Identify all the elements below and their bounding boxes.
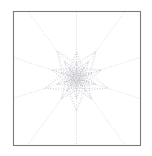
plot-canvas [0, 0, 152, 156]
figure-root [0, 0, 152, 156]
